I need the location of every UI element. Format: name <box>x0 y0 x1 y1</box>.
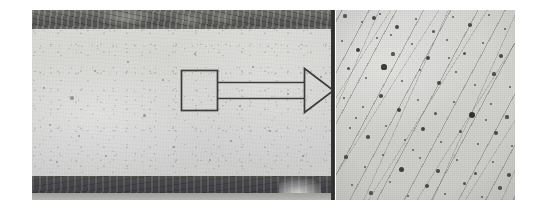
region-of-interest-callout <box>176 62 336 118</box>
figure-root <box>0 0 534 208</box>
micrograph-vignette <box>336 10 515 200</box>
macrograph-inclusion <box>127 61 129 63</box>
macrograph-inclusion <box>194 53 196 55</box>
high-magnification-micrograph-panel <box>336 10 515 200</box>
panel-divider-rule <box>331 10 335 200</box>
arrow-head <box>305 69 334 113</box>
macrograph-inclusion <box>143 114 146 117</box>
surface-layer-top-texture <box>32 10 335 29</box>
mount-edge-lip <box>32 193 335 200</box>
macrograph-inclusion <box>70 96 73 99</box>
callout-arrow-icon <box>176 62 336 118</box>
roi-box <box>182 71 218 111</box>
bottom-right-highlight-wedge <box>279 171 321 193</box>
macrograph-inclusion <box>78 135 80 137</box>
